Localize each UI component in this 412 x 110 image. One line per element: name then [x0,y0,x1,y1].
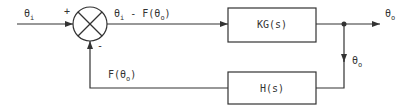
output-label: θo [385,8,395,22]
feedback-signal-label: F(θo) [108,69,136,83]
input-label: θi [24,8,34,22]
summing-junction [73,7,107,41]
feedback-block-label: H(s) [260,83,284,94]
feedback-arrowhead-icon [87,41,93,49]
error-signal-label: θi - F(θo) [114,8,171,22]
minus-sign: - [97,40,103,51]
block-diagram: θi + - θi - F(θo) KG(s) θo θo H(s) F(θo) [0,0,412,110]
plus-sign: + [64,6,70,17]
feedback-line [90,41,228,88]
forward-block-label: KG(s) [257,19,287,30]
takeoff-label: θo [352,55,362,69]
takeoff-to-h-line [316,60,344,88]
